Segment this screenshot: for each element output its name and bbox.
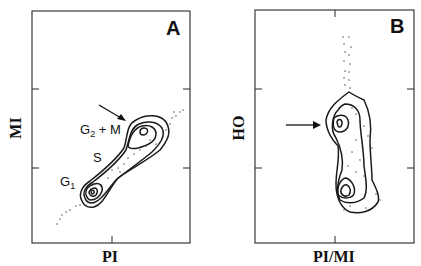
- panel-b-y-axis-label: HO: [230, 116, 247, 141]
- figure: A G2 + M S G: [0, 0, 421, 266]
- panel-b-frame: [255, 10, 414, 243]
- panel-a-x-axis-label: PI: [102, 248, 118, 265]
- panel-b-letter: B: [390, 15, 404, 37]
- panel-b-arrow-icon: [286, 121, 321, 129]
- panel-b-x-axis-label: PI/MI: [313, 248, 355, 265]
- panel-a: A G2 + M S G: [7, 11, 190, 265]
- g2m-label: G2 + M: [80, 122, 121, 139]
- panel-b: B P: [230, 10, 414, 265]
- panel-a-arrow-icon: [99, 105, 126, 121]
- g1-label: G1: [60, 174, 75, 191]
- s-phase-label: S: [93, 150, 102, 165]
- panel-a-y-axis-label: MI: [7, 117, 24, 138]
- panel-a-letter: A: [166, 17, 180, 39]
